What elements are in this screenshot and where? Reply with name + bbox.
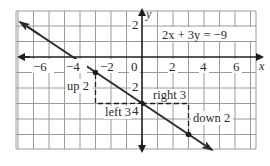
point-neg3-neg1	[93, 70, 99, 76]
y-tick-neg2: 2	[132, 79, 139, 94]
graph-line-main	[22, 23, 212, 150]
y-axis-label: y	[145, 7, 152, 21]
y-tick-2: 2	[132, 17, 139, 32]
x-tick-6: 6	[233, 59, 240, 74]
x-tick-4: 4	[200, 59, 207, 74]
equation-label: 2x + 3y = −9	[162, 28, 227, 42]
y-tick-neg4: 4	[132, 103, 139, 118]
x-axis-label: x	[258, 59, 265, 73]
x-tick-neg4: −4	[66, 59, 80, 74]
left-3-label: left 3	[105, 105, 131, 119]
x-tick-2: 2	[169, 59, 176, 74]
x-tick-0: 0	[131, 59, 138, 74]
x-tick-neg6: −6	[33, 59, 47, 74]
right-3-label: right 3	[153, 88, 186, 102]
point-3-neg5	[186, 132, 192, 138]
x-tick-labels: −6 −4 −2 0 2 4 6	[32, 59, 242, 74]
up-2-label: up 2	[67, 79, 89, 93]
coordinate-graph: −6 −4 −2 0 2 4 6 2 2 4 y x 2x + 3y = −9 …	[0, 0, 270, 166]
x-tick-neg2: −2	[100, 59, 114, 74]
down-2-label: down 2	[193, 111, 230, 125]
